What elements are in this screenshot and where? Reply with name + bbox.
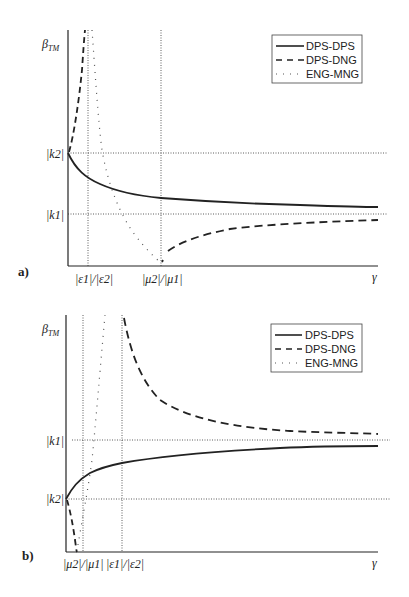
panel-b-legend-eng-mng: ENG-MNG <box>305 357 358 369</box>
panel-a-ytick-k2: |k2| <box>46 147 64 161</box>
panel-a: βTM |k2| |k1| |ε1|/|ε2| |μ2|/|μ1| γ a) D… <box>18 30 388 286</box>
panel-b-series-eng-mng <box>78 315 105 545</box>
figure: βTM |k2| |k1| |ε1|/|ε2| |μ2|/|μ1| γ a) D… <box>0 0 409 597</box>
panel-b-legend-dps-dps: DPS-DPS <box>305 329 354 341</box>
panel-b-xlabel: γ <box>372 556 377 570</box>
panel-b-legend-dps-dng: DPS-DNG <box>305 343 356 355</box>
panel-a-label: a) <box>18 264 29 279</box>
panel-a-series-dps-dng-branch2 <box>162 220 378 262</box>
panel-a-legend: DPS-DPS DPS-DNG ENG-MNG <box>272 35 362 83</box>
panel-b-series-dps-dng-branch1 <box>67 500 77 552</box>
panel-b-ylabel: βTM <box>41 322 60 338</box>
panel-a-ytick-k1: |k1| <box>46 208 64 222</box>
panel-a-legend-dps-dps: DPS-DPS <box>306 40 355 52</box>
panel-a-legend-eng-mng: ENG-MNG <box>306 68 359 80</box>
panel-b-series-dps-dps <box>66 446 378 499</box>
panel-b-xtick-eps: |ε1|/|ε2| <box>106 557 144 571</box>
panel-b: βTM |k1| |k2| |μ2|/|μ1| |ε1|/|ε2| γ b) D… <box>22 315 390 571</box>
panel-b-ytick-k1: |k1| <box>46 434 64 448</box>
panel-b-legend: DPS-DPS DPS-DNG ENG-MNG <box>271 324 362 372</box>
panel-a-series-dps-dps <box>68 153 378 207</box>
panel-a-xlabel: γ <box>372 270 377 284</box>
panel-a-series-eng-mng <box>92 30 160 262</box>
panel-a-legend-dps-dng: DPS-DNG <box>306 54 357 66</box>
panel-b-ytick-k2: |k2| <box>46 492 64 506</box>
panel-b-xtick-mu: |μ2|/|μ1| <box>63 557 104 571</box>
panel-b-label: b) <box>22 548 34 563</box>
panel-a-xtick-eps: |ε1|/|ε2| <box>75 272 113 286</box>
panel-a-series-dps-dng-branch1 <box>69 30 85 152</box>
panel-a-ylabel: βTM <box>41 37 60 53</box>
panel-a-xtick-mu: |μ2|/|μ1| <box>142 272 183 286</box>
